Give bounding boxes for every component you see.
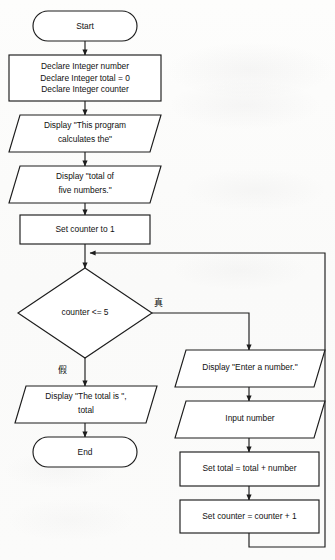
flowchart-diagram: Start Declare Integer number Declare Int… [0,0,335,560]
node-end[interactable]: End [33,437,137,467]
node-set-counter-1[interactable]: Set counter to 1 [20,215,150,244]
end-label: End [78,447,93,457]
display-intro-1-line-2: calculates the" [58,134,112,144]
node-set-total[interactable]: Set total = total + number [180,452,319,486]
start-label: Start [76,21,94,31]
flowchart-canvas: Start Declare Integer number Declare Int… [0,0,335,560]
node-input-number[interactable]: Input number [175,401,325,438]
set-counter-increment-label: Set counter = counter + 1 [202,511,297,521]
node-declare[interactable]: Declare Integer number Declare Integer t… [9,55,161,101]
node-set-counter-increment[interactable]: Set counter = counter + 1 [180,500,319,533]
node-start[interactable]: Start [33,11,137,41]
display-total-line-2: total [78,405,94,415]
node-display-intro-1[interactable]: Display "This program calculates the" [9,115,161,152]
branch-label-true: 真 [154,297,163,308]
display-enter-number-label: Display "Enter a number." [202,362,297,372]
declare-line-3: Declare Integer counter [41,84,129,94]
declare-line-2: Declare Integer total = 0 [40,73,130,83]
node-display-intro-2[interactable]: Display "total of five numbers." [9,166,161,203]
display-intro-2-line-2: five numbers." [58,185,111,195]
display-intro-1-line-1: Display "This program [44,120,126,130]
display-total-line-1: Display "The total is ", [45,391,126,401]
node-display-total[interactable]: Display "The total is ", total [15,386,157,423]
declare-line-1: Declare Integer number [41,61,129,71]
node-decision-counter[interactable]: counter <= 5 [18,268,152,358]
decision-label: counter <= 5 [61,307,108,317]
set-counter-1-label: Set counter to 1 [55,224,114,234]
set-total-label: Set total = total + number [202,463,296,473]
input-number-label: Input number [225,413,275,423]
display-intro-2-line-1: Display "total of [56,171,115,181]
node-display-enter-number[interactable]: Display "Enter a number." [175,350,325,387]
edge-decision-true-to-display-enter [152,313,249,350]
branch-label-false: 假 [58,365,67,375]
